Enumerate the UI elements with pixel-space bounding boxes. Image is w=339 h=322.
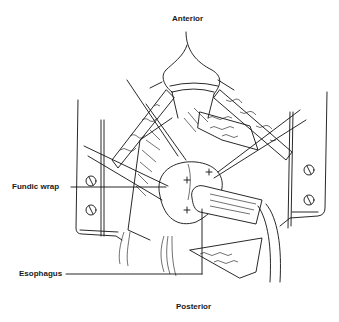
left-retractor [76, 100, 122, 240]
left-fat-pad [112, 90, 174, 168]
lower-fat-pad [190, 238, 262, 278]
top-retractor [150, 32, 234, 118]
label-anterior: Anterior [172, 15, 203, 23]
right-fat-block [198, 112, 258, 150]
surgical-illustration: Anterior Fundic wrap Esophagus Posterior [0, 0, 339, 322]
label-esophagus: Esophagus [19, 270, 62, 278]
right-retractor [280, 92, 327, 228]
label-posterior: Posterior [176, 303, 211, 311]
label-fundic-wrap: Fundic wrap [12, 183, 59, 191]
